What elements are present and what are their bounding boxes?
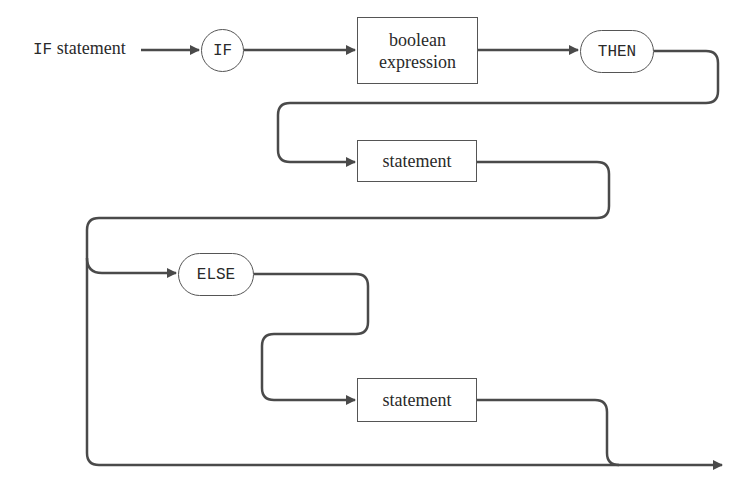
terminal-then: THEN bbox=[580, 30, 654, 73]
arrow-else-to-statement bbox=[254, 274, 368, 400]
connector-statement-to-exit bbox=[477, 400, 619, 465]
nonterminal-statement-else: statement bbox=[357, 378, 477, 422]
terminal-if: IF bbox=[201, 29, 244, 72]
boolean-expression-line1: boolean bbox=[389, 29, 446, 51]
terminal-then-text: THEN bbox=[598, 43, 636, 61]
entry-keyword: IF bbox=[33, 41, 52, 59]
entry-label-text: statement bbox=[52, 38, 125, 58]
entry-label: IF statement bbox=[33, 38, 126, 59]
terminal-if-text: IF bbox=[213, 42, 232, 60]
nonterminal-boolean-expression: boolean expression bbox=[357, 17, 478, 84]
terminal-else: ELSE bbox=[178, 253, 254, 296]
terminal-else-text: ELSE bbox=[197, 266, 235, 284]
arrow-then-to-statement bbox=[278, 51, 718, 162]
statement-else-text: statement bbox=[383, 389, 452, 411]
statement-then-text: statement bbox=[383, 150, 452, 172]
nonterminal-statement-then: statement bbox=[357, 140, 477, 182]
arrow-branch-to-else bbox=[87, 258, 176, 273]
boolean-expression-line2: expression bbox=[379, 51, 456, 73]
if-statement-syntax-diagram: IF statement IF boolean expression THEN … bbox=[0, 0, 750, 497]
